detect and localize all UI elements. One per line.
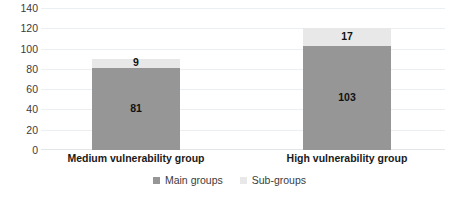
bar-medium-vulnerability-group[interactable]: 9 81 — [92, 59, 180, 150]
bar-value-label-main: 81 — [92, 103, 180, 114]
y-axis-tick-60: 60 — [0, 84, 38, 94]
y-axis-tick-40: 40 — [0, 104, 38, 114]
y-axis-tick-100: 100 — [0, 44, 38, 54]
chart-legend: Main groups Sub-groups — [0, 174, 459, 186]
legend-swatch-icon-sub-groups — [240, 177, 247, 184]
y-axis-tick-20: 20 — [0, 125, 38, 135]
legend-label-sub-groups: Sub-groups — [252, 174, 306, 186]
bar-value-label-main: 103 — [303, 92, 391, 103]
stacked-bar-chart: 140 120 100 80 60 40 20 0 9 81 17 — [0, 0, 459, 199]
bar-high-vulnerability-group[interactable]: 17 103 — [303, 28, 391, 150]
y-axis: 140 120 100 80 60 40 20 0 — [0, 8, 38, 150]
bar-value-label-sub: 17 — [303, 31, 391, 42]
bar-segment-sub-groups[interactable]: 9 — [92, 59, 180, 68]
y-axis-tick-120: 120 — [0, 23, 38, 33]
bar-segment-main-groups[interactable]: 103 — [303, 46, 391, 150]
x-axis-label-high-vulnerability-group: High vulnerability group — [246, 152, 448, 165]
y-axis-tick-80: 80 — [0, 64, 38, 74]
x-axis-category-labels: Medium vulnerability group High vulnerab… — [41, 152, 445, 168]
bar-segment-main-groups[interactable]: 81 — [92, 68, 180, 150]
legend-item-main-groups[interactable]: Main groups — [153, 174, 223, 186]
y-axis-tick-140: 140 — [0, 3, 38, 13]
bar-segment-sub-groups[interactable]: 17 — [303, 28, 391, 45]
gridline-140 — [41, 8, 445, 9]
bar-value-label-sub: 9 — [92, 57, 180, 68]
x-axis-label-medium-vulnerability-group: Medium vulnerability group — [35, 152, 237, 165]
legend-swatch-icon-main-groups — [153, 177, 160, 184]
plot-area: 9 81 17 103 — [41, 8, 445, 150]
legend-label-main-groups: Main groups — [165, 174, 223, 186]
legend-item-sub-groups[interactable]: Sub-groups — [240, 174, 306, 186]
y-axis-tick-0: 0 — [0, 145, 38, 155]
